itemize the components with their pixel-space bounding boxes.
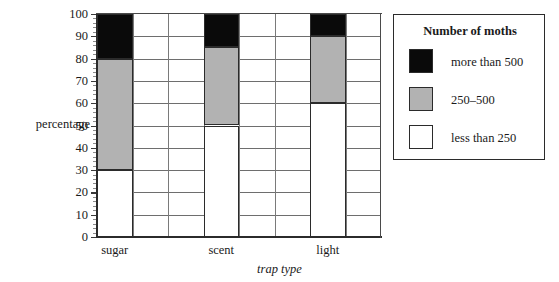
x-label-sugar: sugar	[101, 243, 128, 257]
y-tick-label-60: 60	[58, 97, 88, 110]
y-tick-label-80: 80	[58, 52, 88, 65]
bar-scent	[204, 14, 240, 237]
bar-sugar	[97, 14, 133, 237]
plot-frame-top	[96, 13, 382, 14]
plot-frame-right	[380, 13, 381, 238]
bar-segment-light-less-than-250	[310, 103, 346, 237]
bar-segment-light-more-than-500	[310, 14, 346, 36]
legend-entry-gray: 250–500	[409, 87, 539, 113]
y-tick-label-100: 100	[58, 8, 88, 21]
gridline-x-5	[275, 14, 276, 237]
x-axis-line	[96, 236, 382, 238]
bar-light	[310, 14, 346, 237]
gridline-x-4	[239, 14, 240, 237]
legend-label-black: more than 500	[451, 55, 523, 69]
y-tick-label-0: 0	[58, 231, 88, 244]
y-tick-label-20: 20	[58, 186, 88, 199]
legend-title: Number of moths	[394, 24, 546, 38]
y-tick-label-10: 10	[58, 208, 88, 221]
bar-segment-sugar-more-than-500	[97, 14, 133, 59]
bar-segment-sugar-less-than-250	[97, 170, 133, 237]
plot-area: 0102030405060708090100	[97, 14, 381, 237]
legend-label-white: less than 250	[451, 131, 516, 145]
y-tick-label-30: 30	[58, 164, 88, 177]
x-axis-title: trap type	[0, 262, 559, 276]
legend-swatch-gray	[409, 87, 433, 111]
legend-box: Number of moths more than 500250–500less…	[393, 14, 545, 160]
bar-segment-light-250–500	[310, 36, 346, 103]
legend-entry-white: less than 250	[409, 125, 539, 151]
legend-entry-black: more than 500	[409, 49, 539, 75]
chart-figure: percentage 0102030405060708090100 sugars…	[0, 0, 559, 282]
x-label-scent: scent	[208, 243, 234, 257]
bar-segment-scent-less-than-250	[204, 126, 240, 238]
y-axis-line	[96, 13, 98, 238]
bar-segment-sugar-250–500	[97, 59, 133, 171]
gridline-x-1	[133, 14, 134, 237]
y-tick-label-50: 50	[58, 119, 88, 132]
legend-swatch-black	[409, 49, 433, 73]
bar-segment-scent-250–500	[204, 47, 240, 125]
gridline-x-2	[168, 14, 169, 237]
y-tick-label-70: 70	[58, 74, 88, 87]
gridline-x-7	[346, 14, 347, 237]
legend-swatch-white	[409, 125, 433, 149]
y-tick-label-40: 40	[58, 141, 88, 154]
y-tick-label-90: 90	[58, 30, 88, 43]
x-label-light: light	[316, 243, 339, 257]
bar-segment-scent-more-than-500	[204, 14, 240, 47]
legend-label-gray: 250–500	[451, 93, 495, 107]
